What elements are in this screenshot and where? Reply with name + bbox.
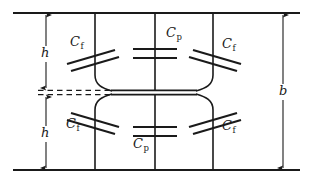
capacitor-cf-top-left bbox=[67, 50, 119, 71]
dimension-label-h-lower: h bbox=[41, 126, 49, 139]
capacitor-cf-top-right bbox=[189, 50, 241, 71]
capacitor-label-cf-top-right: Cf bbox=[222, 37, 235, 50]
fringe-curve-bottom-right bbox=[196, 94, 213, 110]
capacitor-label-cp-bottom: Cp bbox=[133, 137, 148, 150]
capacitor-label-cf-bottom-right: Cf bbox=[222, 119, 235, 132]
cp-top-subscript: p bbox=[176, 32, 181, 42]
cf-bottom-left-symbol: C bbox=[66, 116, 76, 131]
cf-top-left-subscript: f bbox=[80, 41, 83, 51]
fringe-curve-bottom-left bbox=[95, 94, 112, 110]
capacitor-label-cp-top: Cp bbox=[166, 26, 181, 39]
cp-top-symbol: C bbox=[166, 25, 176, 40]
cf-bottom-left-subscript: f bbox=[76, 123, 79, 133]
cf-bottom-right-symbol: C bbox=[222, 118, 232, 133]
schematic-drawing bbox=[0, 0, 310, 186]
capacitor-label-cf-bottom-left: Cf bbox=[66, 117, 79, 130]
cp-bottom-subscript: p bbox=[143, 143, 148, 153]
fringe-curve-top-left bbox=[95, 75, 112, 91]
fringe-curve-top-right bbox=[196, 75, 213, 91]
cf-top-left-symbol: C bbox=[70, 34, 80, 49]
dimension-label-h-upper: h bbox=[41, 46, 49, 59]
capacitance-schematic-figure: h h b Cf Cp Cf Cf Cp Cf bbox=[0, 0, 310, 186]
cf-top-right-symbol: C bbox=[222, 36, 232, 51]
cp-bottom-symbol: C bbox=[133, 136, 143, 151]
cf-top-right-subscript: f bbox=[232, 43, 235, 53]
cf-bottom-right-subscript: f bbox=[232, 125, 235, 135]
dimension-label-b-total: b bbox=[279, 84, 287, 97]
capacitor-label-cf-top-left: Cf bbox=[70, 35, 83, 48]
